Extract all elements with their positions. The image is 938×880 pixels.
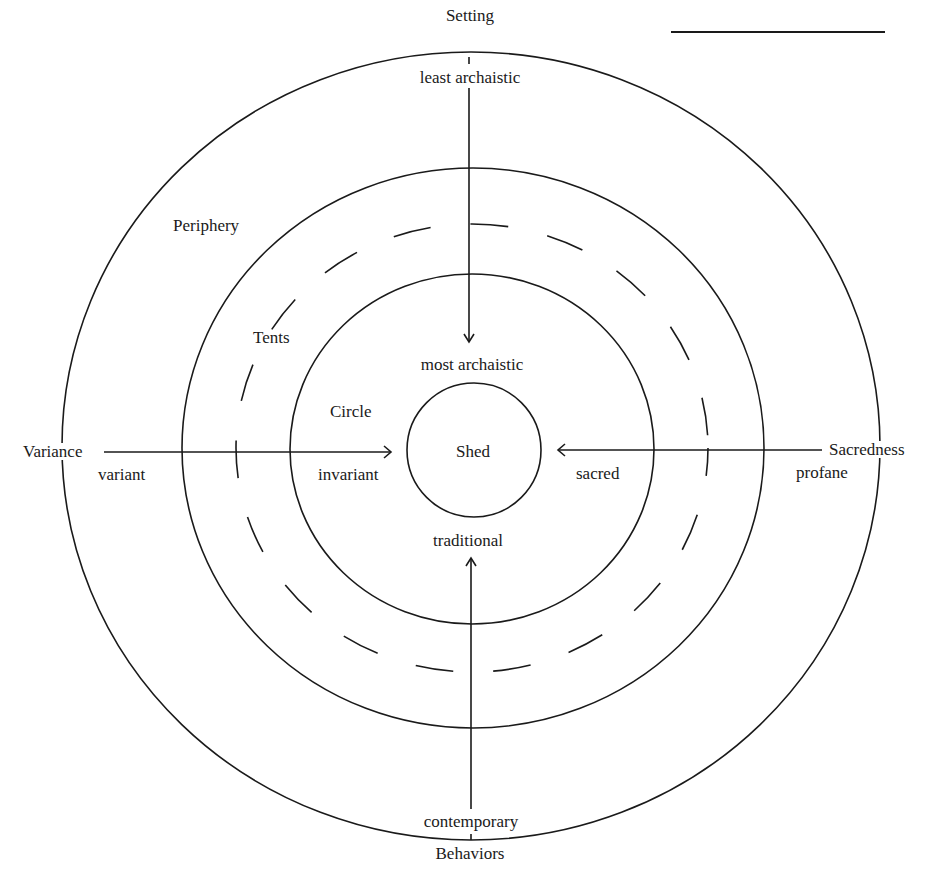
zone-diagram	[0, 0, 938, 880]
setting-title: Setting	[443, 7, 497, 24]
setting-outer-label: least archaistic	[417, 69, 524, 86]
setting-inner-label: most archaistic	[421, 356, 523, 373]
behaviors-inner-label: traditional	[433, 532, 503, 549]
tents-label: Tents	[253, 329, 290, 346]
periphery-label: Periphery	[173, 217, 239, 234]
behaviors-title: Behaviors	[433, 845, 508, 862]
sacredness-outer-label: profane	[793, 464, 851, 481]
behaviors-outer-label: contemporary	[421, 813, 521, 830]
variance-outer-label: variant	[98, 466, 145, 483]
circle-label: Circle	[330, 403, 372, 420]
sacredness-inner-label: sacred	[576, 465, 619, 482]
variance-title: Variance	[20, 443, 85, 460]
variance-inner-label: invariant	[318, 466, 378, 483]
sacredness-title: Sacredness	[826, 441, 908, 458]
shed-label: Shed	[456, 443, 490, 460]
